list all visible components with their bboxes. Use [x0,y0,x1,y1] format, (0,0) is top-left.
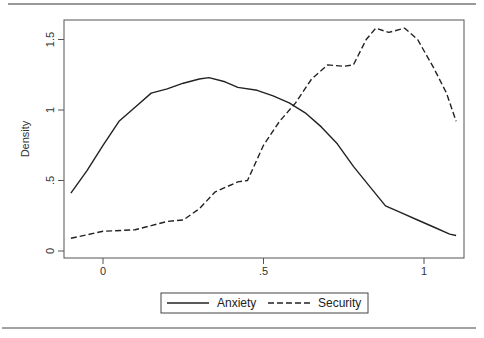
y-tick-label: 1.5 [44,32,56,47]
series-line-anxiety [71,78,456,236]
legend: Anxiety Security [161,293,368,313]
y-tick-label: 0 [44,248,56,254]
legend-label-security: Security [318,296,361,310]
y-tick-label: 1 [44,107,56,113]
y-axis-title: Density [19,120,31,157]
x-axis: 0.51 [100,258,427,277]
x-tick-label: 0 [100,265,106,277]
series-group [71,28,456,238]
legend-label-anxiety: Anxiety [217,296,256,310]
density-chart: 0.511.5 0.51 Density Anxiety Security [0,0,484,338]
y-axis: 0.511.5 [44,32,64,254]
x-tick-label: .5 [259,265,268,277]
y-tick-label: .5 [44,176,56,185]
series-line-security [71,28,456,238]
plot-frame [64,20,464,258]
x-tick-label: 1 [421,265,427,277]
